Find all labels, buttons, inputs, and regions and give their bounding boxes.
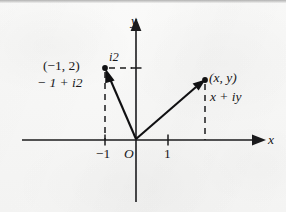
y-axis-label: y bbox=[131, 14, 137, 28]
x-axis-label: x bbox=[268, 133, 274, 147]
vector-to-point-a bbox=[102, 65, 136, 139]
y-axis bbox=[131, 18, 142, 203]
x-axis bbox=[22, 135, 266, 146]
x-axis-tick-label-one: 1 bbox=[164, 147, 171, 161]
plot-canvas bbox=[0, 0, 286, 212]
point-b-coordinate-label: (x, y) bbox=[209, 71, 237, 85]
origin-label: O bbox=[124, 147, 134, 161]
y-axis-tick-label-i2: i2 bbox=[109, 51, 119, 64]
point-b-complex-label: x + iy bbox=[210, 90, 242, 104]
point-a-complex-label: − 1 + i2 bbox=[37, 76, 83, 90]
vector-to-point-b bbox=[136, 77, 208, 139]
point-a-coordinate-label: (−1, 2) bbox=[43, 59, 80, 73]
complex-plane-figure: (−1, 2) − 1 + i2 i2 (x, y) x + iy −1 O 1… bbox=[0, 0, 286, 212]
x-axis-tick-label-negative-one: −1 bbox=[96, 147, 110, 161]
